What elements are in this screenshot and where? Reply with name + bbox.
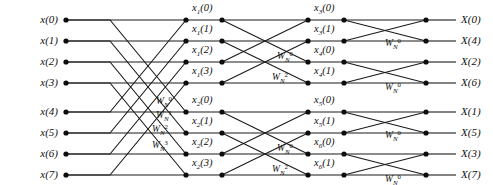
output-edges — [426, 20, 456, 175]
twiddle-stage3-1: WN0 — [385, 80, 402, 94]
twiddle-stage1-0: WN0 — [156, 94, 173, 108]
stage3-label-1: x3(1) — [313, 23, 335, 36]
input-label-5: x(5) — [39, 126, 58, 139]
output-label-6: X(3) — [460, 147, 481, 160]
stage2-label-0: x1(0) — [191, 2, 213, 15]
stage3-label-7: x6(1) — [313, 157, 335, 170]
stage3-label-4: x5(0) — [313, 94, 335, 107]
stage2-node-labels: x1(0) x1(1) x1(2) x1(3) x2(0) x2(1) x2(2… — [191, 2, 213, 170]
stage3-label-3: x4(1) — [313, 65, 335, 78]
input-label-2: x(2) — [39, 55, 58, 68]
twiddle-stage3-3: WN0 — [385, 172, 402, 185]
twiddle-stage3-0: WN0 — [385, 36, 402, 50]
input-label-3: x(3) — [39, 76, 58, 89]
stage2-label-1: x1(1) — [191, 23, 213, 36]
stage3-node-labels: x3(0) x3(1) x4(0) x4(1) x5(0) x5(1) x6(0… — [313, 2, 335, 170]
twiddle-stage2-1: WN2 — [272, 70, 289, 84]
twiddle-stage1-3: WN3 — [152, 138, 169, 152]
output-label-4: X(1) — [460, 105, 481, 118]
stage3-label-2: x4(0) — [313, 44, 335, 57]
stage2-label-4: x2(0) — [191, 94, 213, 107]
stage2-edges — [222, 20, 308, 175]
fft-butterfly-diagram: x(0) x(1) x(2) x(3) x(4) x(5) x(6) x(7) … — [0, 0, 493, 185]
input-label-4: x(4) — [39, 105, 58, 118]
input-label-7: x(7) — [39, 168, 58, 181]
input-labels: x(0) x(1) x(2) x(3) x(4) x(5) x(6) x(7) — [39, 13, 58, 181]
input-label-6: x(6) — [39, 147, 58, 160]
output-labels: X(0) X(4) X(2) X(6) X(1) X(5) X(3) X(7) — [460, 13, 481, 181]
stage3-label-0: x3(0) — [313, 2, 335, 15]
output-label-0: X(0) — [460, 13, 481, 26]
stage2-label-7: x2(3) — [191, 157, 213, 170]
output-label-2: X(2) — [460, 55, 481, 68]
output-label-7: X(7) — [460, 168, 481, 181]
stage2-label-3: x1(3) — [191, 65, 213, 78]
twiddle-stage3-2: WN0 — [385, 128, 402, 142]
output-label-3: X(6) — [460, 76, 481, 89]
signal-flow-graph: x(0) x(1) x(2) x(3) x(4) x(5) x(6) x(7) … — [0, 0, 493, 185]
stage2-label-5: x2(1) — [191, 115, 213, 128]
output-label-1: X(4) — [460, 34, 481, 47]
output-label-5: X(5) — [460, 126, 481, 139]
input-label-1: x(1) — [39, 34, 58, 47]
input-label-0: x(0) — [39, 13, 58, 26]
stage2-label-2: x1(2) — [191, 44, 213, 57]
stage2-label-6: x2(2) — [191, 136, 213, 149]
stage3-label-6: x6(0) — [313, 136, 335, 149]
stage3-label-5: x5(1) — [313, 115, 335, 128]
twiddle-stage2-3: WN2 — [272, 162, 289, 176]
stage2-twiddle-labels: WN0 WN2 WN0 WN2 — [272, 49, 294, 176]
